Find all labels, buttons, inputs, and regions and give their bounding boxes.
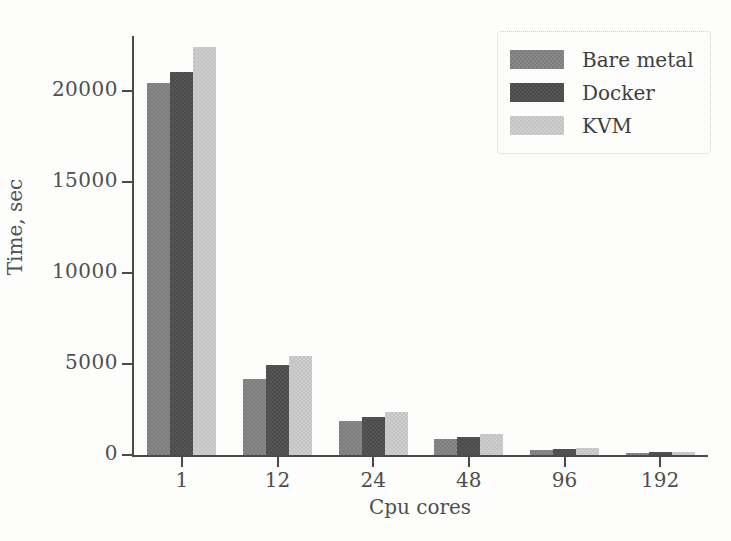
x-tick-48 (468, 457, 470, 467)
legend-label: KVM (582, 114, 632, 138)
bar-docker-48 (457, 437, 480, 455)
bar-bare-metal-192 (626, 453, 649, 455)
bar-kvm-12 (289, 356, 312, 455)
legend-swatch-icon (510, 83, 564, 102)
legend-label: Docker (582, 81, 655, 105)
x-tick-label-48: 48 (456, 468, 481, 492)
bar-kvm-24 (385, 412, 408, 455)
bar-kvm-96 (576, 448, 599, 455)
y-tick-label-0: 0 (6, 441, 118, 465)
bar-kvm-48 (480, 434, 503, 455)
x-tick-24 (372, 457, 374, 467)
bar-bare-metal-24 (339, 421, 362, 455)
bar-bare-metal-96 (530, 450, 553, 455)
legend-swatch-icon (510, 50, 564, 69)
x-tick-12 (277, 457, 279, 467)
bar-bare-metal-12 (243, 379, 266, 456)
y-tick-5000 (122, 363, 133, 365)
chart-legend: Bare metalDockerKVM (497, 31, 711, 154)
x-tick-label-1: 1 (175, 468, 188, 492)
x-axis-title: Cpu cores (132, 495, 708, 519)
bar-docker-192 (649, 452, 672, 455)
bar-bare-metal-1 (147, 83, 170, 455)
legend-item-kvm[interactable]: KVM (510, 109, 696, 142)
x-tick-label-192: 192 (641, 468, 679, 492)
bar-kvm-1 (193, 47, 216, 455)
legend-swatch-icon (510, 116, 564, 135)
x-tick-label-24: 24 (360, 468, 385, 492)
bar-chart-figure: 05000100001500020000 112244896192 Time, … (0, 0, 731, 541)
y-tick-20000 (122, 90, 133, 92)
y-tick-15000 (122, 181, 133, 183)
x-tick-label-12: 12 (265, 468, 290, 492)
y-tick-0 (122, 454, 133, 456)
x-tick-label-96: 96 (552, 468, 577, 492)
legend-item-bare-metal[interactable]: Bare metal (510, 43, 696, 76)
x-tick-1 (181, 457, 183, 467)
bar-bare-metal-48 (434, 439, 457, 455)
bar-kvm-192 (672, 452, 695, 455)
bar-docker-24 (362, 417, 385, 455)
bar-docker-1 (170, 72, 193, 455)
bar-docker-12 (266, 365, 289, 455)
legend-item-docker[interactable]: Docker (510, 76, 696, 109)
y-axis-title: Time, sec (3, 97, 27, 357)
x-tick-192 (659, 457, 661, 467)
x-axis-spine (132, 455, 708, 457)
bar-docker-96 (553, 449, 576, 455)
x-tick-96 (564, 457, 566, 467)
legend-label: Bare metal (582, 48, 694, 72)
y-tick-10000 (122, 272, 133, 274)
